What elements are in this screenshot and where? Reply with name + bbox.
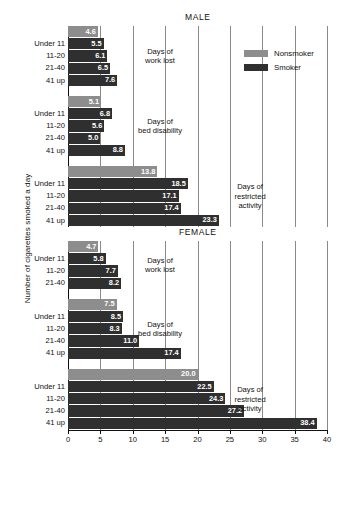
category-label-under-11: Under 11	[0, 110, 65, 118]
category-label-11-20: 11-20	[0, 122, 65, 130]
bar-value-label: 6.1	[95, 52, 105, 59]
category-label-under-11: Under 11	[0, 40, 65, 48]
bar-smoker: 5.0	[68, 133, 100, 144]
bar-value-label: 7.6	[105, 77, 115, 84]
x-tick-label-15: 15	[155, 436, 175, 444]
measure-annotation: Days ofrestrictedactivity	[205, 385, 295, 413]
chart-root: Number of cigarettes smoked a day MALEFE…	[0, 0, 343, 511]
bar-nonsmoker: 4.6	[68, 26, 98, 37]
bar-smoker: 17.4	[68, 348, 181, 359]
bar-value-label: 17.4	[164, 349, 178, 356]
category-label-21-40: 21-40	[0, 204, 65, 212]
x-tick-label-35: 35	[285, 436, 305, 444]
bar-value-label: 13.8	[141, 168, 155, 175]
legend-label-nonsmoker: Nonsmoker	[274, 50, 314, 58]
bar-nonsmoker: 5.1	[68, 96, 101, 107]
panel-title-male: MALE	[185, 12, 211, 22]
bar-smoker: 17.1	[68, 190, 179, 201]
bar-smoker: 5.5	[68, 38, 104, 49]
category-label-21-40: 21-40	[0, 407, 65, 415]
category-label-41-up: 41 up	[0, 419, 65, 427]
x-tick-mark-40	[327, 430, 328, 434]
x-tick-mark-10	[133, 430, 134, 434]
bar-nonsmoker: 13.8	[68, 166, 157, 177]
measure-annotation: Days ofwork lost	[115, 47, 205, 66]
bar-value-label: 5.8	[93, 255, 103, 262]
bar-value-label: 4.7	[86, 243, 96, 250]
bar-smoker: 7.6	[68, 75, 117, 86]
measure-annotation: Days ofrestrictedactivity	[205, 182, 295, 210]
category-label-21-40: 21-40	[0, 64, 65, 72]
bar-value-label: 17.1	[162, 192, 176, 199]
category-label-under-11: Under 11	[0, 255, 65, 263]
x-tick-label-40: 40	[317, 436, 337, 444]
bar-value-label: 8.2	[109, 279, 119, 286]
bar-smoker: 8.3	[68, 323, 122, 334]
legend-label-smoker: Smoker	[274, 64, 301, 72]
legend-swatch-smoker	[244, 64, 268, 71]
x-tick-label-10: 10	[123, 436, 143, 444]
bar-smoker: 6.5	[68, 63, 110, 74]
bar-smoker: 38.4	[68, 418, 317, 429]
bar-value-label: 6.8	[100, 110, 110, 117]
bar-smoker: 24.3	[68, 393, 225, 404]
bar-smoker: 22.5	[68, 381, 214, 392]
category-label-41-up: 41 up	[0, 77, 65, 85]
bar-smoker: 18.5	[68, 178, 188, 189]
x-tick-label-25: 25	[220, 436, 240, 444]
bar-value-label: 17.4	[164, 204, 178, 211]
category-label-21-40: 21-40	[0, 337, 65, 345]
x-tick-mark-0	[68, 430, 69, 434]
x-tick-label-0: 0	[58, 436, 78, 444]
legend-swatch-nonsmoker	[244, 50, 268, 57]
bar-nonsmoker: 7.5	[68, 299, 117, 310]
bar-value-label: 4.6	[86, 28, 96, 35]
category-label-11-20: 11-20	[0, 325, 65, 333]
bar-smoker: 5.8	[68, 253, 106, 264]
bar-value-label: 7.5	[104, 301, 114, 308]
bar-value-label: 5.6	[92, 122, 102, 129]
bar-nonsmoker: 20.0	[68, 369, 198, 380]
bar-value-label: 38.4	[300, 419, 314, 426]
bar-value-label: 20.0	[181, 371, 195, 378]
x-tick-mark-25	[230, 430, 231, 434]
bar-value-label: 18.5	[171, 180, 185, 187]
category-label-under-11: Under 11	[0, 180, 65, 188]
category-label-11-20: 11-20	[0, 192, 65, 200]
bar-value-label: 6.5	[98, 64, 108, 71]
category-label-41-up: 41 up	[0, 217, 65, 225]
x-tick-mark-15	[165, 430, 166, 434]
bar-smoker: 7.7	[68, 265, 118, 276]
category-label-under-11: Under 11	[0, 383, 65, 391]
x-tick-mark-30	[262, 430, 263, 434]
measure-annotation: Days ofbed disability	[115, 320, 205, 339]
category-label-11-20: 11-20	[0, 52, 65, 60]
bar-smoker: 6.1	[68, 50, 107, 61]
gridline-x-40	[327, 26, 328, 227]
x-tick-label-30: 30	[252, 436, 272, 444]
bar-smoker: 17.4	[68, 203, 181, 214]
bar-value-label: 5.0	[88, 134, 98, 141]
bar-nonsmoker: 4.7	[68, 241, 98, 252]
y-axis-title: Number of cigarettes smoked a day	[23, 154, 32, 324]
bar-smoker: 6.8	[68, 108, 112, 119]
x-tick-label-20: 20	[188, 436, 208, 444]
category-label-21-40: 21-40	[0, 134, 65, 142]
panel-title-female: FEMALE	[179, 227, 217, 237]
measure-annotation: Days ofwork lost	[115, 256, 205, 275]
bar-smoker: 23.3	[68, 215, 219, 226]
category-label-under-11: Under 11	[0, 313, 65, 321]
bar-smoker: 8.8	[68, 145, 125, 156]
x-tick-label-5: 5	[90, 436, 110, 444]
category-label-11-20: 11-20	[0, 267, 65, 275]
x-tick-mark-20	[198, 430, 199, 434]
bar-value-label: 5.1	[89, 98, 99, 105]
x-tick-mark-5	[100, 430, 101, 434]
bar-smoker: 8.2	[68, 278, 121, 289]
category-label-21-40: 21-40	[0, 279, 65, 287]
bar-smoker: 5.6	[68, 120, 104, 131]
bar-value-label: 23.3	[202, 217, 216, 224]
bar-value-label: 5.5	[91, 40, 101, 47]
category-label-41-up: 41 up	[0, 349, 65, 357]
gridline-x-40	[327, 241, 328, 430]
